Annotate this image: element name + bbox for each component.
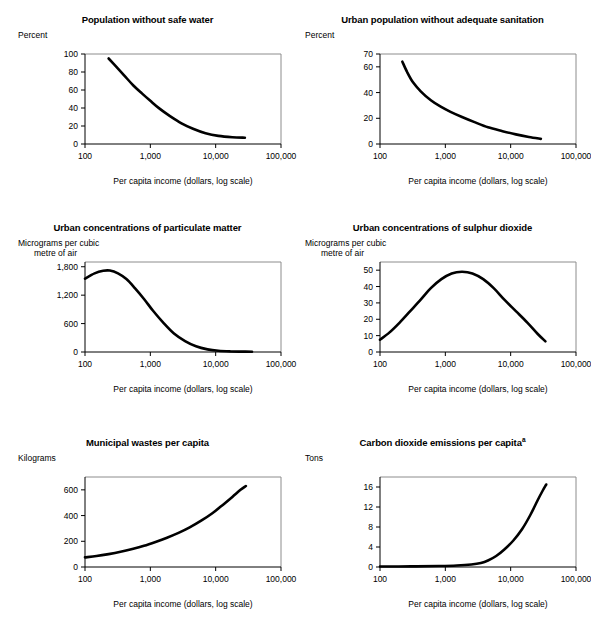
chart-plot: 02004006001001,00010,000100,000 — [0, 473, 295, 597]
x-tick-label: 1,000 — [435, 359, 457, 369]
x-axis-label: Per capita income (dollars, log scale) — [365, 599, 591, 609]
x-tick-label: 100 — [373, 359, 387, 369]
y-tick-label: 600 — [64, 485, 78, 495]
chart-plot: 06001,2001,8001001,00010,000100,000 — [0, 258, 295, 382]
y-tick-label: 0 — [73, 562, 78, 572]
y-tick-label: 0 — [73, 139, 78, 149]
plot-axes — [380, 477, 576, 567]
unit-line-1: Percent — [305, 30, 334, 40]
chart-title: Carbon dioxide emissions per capitaa — [295, 437, 590, 448]
x-tick-label: 100 — [78, 574, 92, 584]
chart-plot: 04812161001,00010,000100,000 — [295, 473, 590, 597]
x-tick-label: 100,000 — [266, 151, 297, 161]
x-tick-label: 100,000 — [561, 151, 591, 161]
x-tick-label: 100 — [373, 151, 387, 161]
x-tick-label: 100,000 — [266, 359, 297, 369]
title-footnote-marker: a — [522, 436, 526, 443]
chart-panel-4: Urban concentrations of sulphur dioxideM… — [295, 222, 590, 394]
chart-plot: 0204060701001,00010,000100,000 — [295, 50, 590, 174]
x-tick-label: 10,000 — [498, 151, 524, 161]
y-tick-label: 12 — [364, 502, 374, 512]
plot-frame — [380, 54, 576, 144]
y-tick-label: 16 — [364, 482, 374, 492]
x-tick-label: 1,000 — [140, 151, 162, 161]
y-tick-label: 40 — [69, 103, 79, 113]
data-curve — [380, 485, 546, 567]
y-axis-unit-label: Percent — [0, 30, 295, 50]
x-axis-label: Per capita income (dollars, log scale) — [70, 384, 296, 394]
y-axis-unit-label: Kilograms — [0, 453, 295, 473]
y-tick-label: 100 — [64, 49, 78, 59]
y-tick-label: 40 — [364, 282, 374, 292]
x-tick-label: 10,000 — [203, 359, 229, 369]
chart-plot: 0204060801001001,00010,000100,000 — [0, 50, 295, 174]
x-tick-label: 100,000 — [561, 359, 591, 369]
y-tick-label: 4 — [368, 542, 373, 552]
y-tick-label: 0 — [368, 139, 373, 149]
chart-panel-1: Population without safe waterPercent0204… — [0, 14, 295, 186]
chart-title: Urban population without adequate sanita… — [295, 14, 590, 25]
chart-panel-3: Urban concentrations of particulate matt… — [0, 222, 295, 394]
y-axis-unit-label: Percent — [295, 30, 590, 50]
plot-axes — [85, 54, 281, 144]
chart-title: Urban concentrations of particulate matt… — [0, 222, 295, 233]
x-tick-label: 1,000 — [435, 151, 457, 161]
y-tick-label: 600 — [64, 319, 78, 329]
chart-title: Urban concentrations of sulphur dioxide — [295, 222, 590, 233]
y-tick-label: 400 — [64, 511, 78, 521]
x-axis-label: Per capita income (dollars, log scale) — [365, 176, 591, 186]
y-tick-label: 60 — [69, 85, 79, 95]
data-curve — [402, 62, 541, 139]
chart-panel-5: Municipal wastes per capitaKilograms0200… — [0, 437, 295, 609]
data-curve — [85, 270, 252, 351]
unit-line-2: metre of air — [305, 248, 590, 258]
y-tick-label: 40 — [364, 88, 374, 98]
x-tick-label: 1,000 — [140, 359, 162, 369]
unit-line-1: Kilograms — [18, 453, 56, 463]
x-tick-label: 10,000 — [498, 359, 524, 369]
plot-axes — [380, 54, 576, 144]
y-axis-unit-label: Tons — [295, 453, 590, 473]
y-tick-label: 50 — [364, 265, 374, 275]
chart-title: Municipal wastes per capita — [0, 437, 295, 448]
x-tick-label: 1,000 — [140, 574, 162, 584]
plot-frame — [380, 477, 576, 567]
y-tick-label: 30 — [364, 298, 374, 308]
x-tick-label: 100,000 — [561, 574, 591, 584]
y-tick-label: 0 — [368, 347, 373, 357]
data-curve — [380, 272, 545, 342]
chart-panel-6: Carbon dioxide emissions per capitaaTons… — [295, 437, 590, 609]
chart-plot: 010203040501001,00010,000100,000 — [295, 258, 590, 382]
chart-panel-2: Urban population without adequate sanita… — [295, 14, 590, 186]
y-tick-label: 80 — [69, 67, 79, 77]
unit-line-1: Micrograms per cubic — [18, 238, 99, 248]
data-curve — [85, 486, 246, 557]
y-tick-label: 20 — [364, 314, 374, 324]
unit-line-1: Percent — [18, 30, 47, 40]
y-tick-label: 0 — [73, 347, 78, 357]
x-axis-label: Per capita income (dollars, log scale) — [365, 384, 591, 394]
y-axis-unit-label: Micrograms per cubicmetre of air — [295, 238, 590, 258]
data-curve — [109, 59, 245, 138]
x-tick-label: 100 — [78, 151, 92, 161]
y-tick-label: 1,200 — [57, 290, 79, 300]
y-tick-label: 1,800 — [57, 262, 79, 272]
unit-line-1: Tons — [305, 453, 323, 463]
y-axis-unit-label: Micrograms per cubicmetre of air — [0, 238, 295, 258]
y-tick-label: 10 — [364, 331, 374, 341]
x-tick-label: 10,000 — [498, 574, 524, 584]
x-tick-label: 10,000 — [203, 574, 229, 584]
x-tick-label: 10,000 — [203, 151, 229, 161]
x-axis-label: Per capita income (dollars, log scale) — [70, 599, 296, 609]
y-tick-label: 8 — [368, 522, 373, 532]
y-tick-label: 60 — [364, 62, 374, 72]
y-tick-label: 200 — [64, 536, 78, 546]
chart-title: Population without safe water — [0, 14, 295, 25]
unit-line-2: metre of air — [18, 248, 295, 258]
x-tick-label: 100 — [373, 574, 387, 584]
y-tick-label: 20 — [364, 113, 374, 123]
x-tick-label: 100 — [78, 359, 92, 369]
y-tick-label: 0 — [368, 562, 373, 572]
plot-frame — [85, 54, 281, 144]
